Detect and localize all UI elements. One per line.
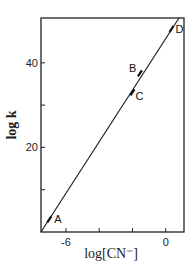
y-tick-label: 40 bbox=[26, 57, 38, 69]
y-axis-label: log k bbox=[4, 110, 19, 139]
series-line bbox=[41, 18, 179, 232]
y-tick-label: 20 bbox=[26, 141, 38, 153]
y-axis-ticks: 2040 bbox=[26, 57, 45, 190]
data-point-marker bbox=[47, 216, 51, 222]
data-point-label: D bbox=[176, 23, 184, 35]
data-point-label: B bbox=[129, 62, 136, 74]
data-point-label: C bbox=[135, 90, 143, 102]
data-point-label: A bbox=[54, 213, 62, 225]
data-point-marker bbox=[170, 26, 174, 32]
chart: -60 2040 ABCD log[CN⁻] log k bbox=[0, 0, 192, 274]
plot-frame bbox=[41, 18, 184, 232]
x-tick-label: -6 bbox=[61, 236, 71, 248]
series-lines bbox=[41, 18, 179, 232]
x-axis-label: log[CN⁻] bbox=[84, 246, 138, 261]
data-points: ABCD bbox=[47, 23, 183, 225]
x-tick-label: 0 bbox=[163, 236, 169, 248]
x-axis-ticks: -60 bbox=[61, 228, 169, 248]
plot-border bbox=[41, 18, 184, 232]
